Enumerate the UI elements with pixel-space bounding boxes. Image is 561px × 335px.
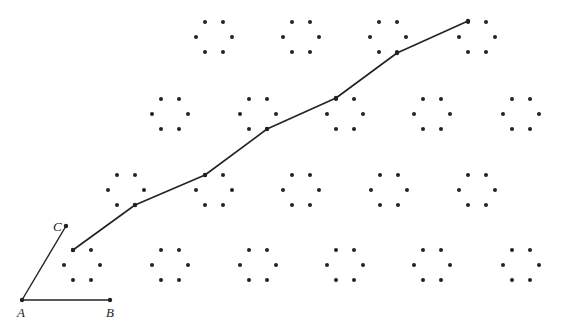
lattice-dot bbox=[510, 248, 514, 252]
path-vertex bbox=[71, 248, 75, 252]
lattice-dot bbox=[150, 112, 154, 116]
lattice-dot bbox=[528, 248, 532, 252]
lattice-dot bbox=[334, 127, 338, 131]
lattice-dot bbox=[405, 188, 409, 192]
lattice-dot bbox=[334, 278, 338, 282]
lattice-dot bbox=[325, 112, 329, 116]
lattice-dot bbox=[368, 35, 372, 39]
lattice-dot bbox=[62, 263, 66, 267]
lattice-dot bbox=[247, 248, 251, 252]
lattice-dot bbox=[203, 20, 207, 24]
lattice-dot bbox=[334, 248, 338, 252]
lattice-dot bbox=[142, 188, 146, 192]
dot-cluster bbox=[281, 20, 321, 54]
dot-cluster bbox=[62, 248, 102, 282]
path-vertices bbox=[71, 19, 470, 252]
lattice-dot bbox=[439, 97, 443, 101]
lattice-dot bbox=[290, 203, 294, 207]
path-vertex bbox=[133, 203, 137, 207]
lattice-dot bbox=[412, 263, 416, 267]
lattice-dot bbox=[281, 188, 285, 192]
lattice-dot bbox=[493, 188, 497, 192]
dot-cluster bbox=[150, 97, 190, 131]
lattice-dot bbox=[537, 263, 541, 267]
lattice-dot bbox=[186, 112, 190, 116]
lattice-dot bbox=[115, 203, 119, 207]
dot-cluster bbox=[368, 20, 408, 54]
dot-cluster bbox=[501, 97, 541, 131]
lattice-dot bbox=[352, 248, 356, 252]
lattice-dot bbox=[265, 97, 269, 101]
dot-cluster bbox=[281, 173, 321, 207]
basis-triangle: A B C bbox=[16, 219, 114, 320]
lattice-dot bbox=[274, 112, 278, 116]
label-a: A bbox=[16, 305, 25, 320]
lattice-dot bbox=[528, 127, 532, 131]
lattice-dot bbox=[404, 35, 408, 39]
lattice-dot bbox=[274, 263, 278, 267]
lattice-dot bbox=[493, 35, 497, 39]
lattice-dot bbox=[439, 248, 443, 252]
dot-cluster bbox=[325, 97, 365, 131]
lattice-dot bbox=[510, 127, 514, 131]
dot-cluster bbox=[325, 248, 365, 282]
lattice-dot bbox=[369, 188, 373, 192]
point-a bbox=[20, 298, 24, 302]
lattice-dot bbox=[378, 203, 382, 207]
lattice-dot bbox=[484, 20, 488, 24]
lattice-dot bbox=[352, 127, 356, 131]
lattice-dot bbox=[115, 173, 119, 177]
lattice-dot bbox=[221, 20, 225, 24]
lattice-dot bbox=[194, 35, 198, 39]
dot-cluster bbox=[412, 97, 452, 131]
lattice-dot bbox=[177, 248, 181, 252]
lattice-dot bbox=[448, 263, 452, 267]
lattice-dot bbox=[457, 188, 461, 192]
lattice-dot bbox=[537, 112, 541, 116]
lattice-dot bbox=[439, 278, 443, 282]
lattice-dot bbox=[265, 248, 269, 252]
lattice-dot bbox=[150, 263, 154, 267]
dot-cluster bbox=[457, 173, 497, 207]
path-vertex bbox=[466, 19, 470, 23]
lattice-dot bbox=[98, 263, 102, 267]
lattice-dot bbox=[484, 203, 488, 207]
lattice-path bbox=[73, 21, 468, 250]
dot-cluster bbox=[194, 20, 234, 54]
lattice-diagram: A B C bbox=[0, 0, 561, 335]
lattice-dot bbox=[203, 203, 207, 207]
path-vertex bbox=[334, 96, 338, 100]
lattice-dot bbox=[466, 203, 470, 207]
dot-cluster bbox=[238, 248, 278, 282]
dot-clusters bbox=[62, 20, 541, 282]
dot-cluster bbox=[501, 248, 541, 282]
dot-cluster bbox=[194, 173, 234, 207]
lattice-dot bbox=[421, 248, 425, 252]
path-vertex bbox=[265, 127, 269, 131]
lattice-dot bbox=[466, 50, 470, 54]
lattice-dot bbox=[265, 278, 269, 282]
lattice-dot bbox=[484, 173, 488, 177]
lattice-dot bbox=[290, 173, 294, 177]
lattice-dot bbox=[177, 127, 181, 131]
lattice-dot bbox=[290, 50, 294, 54]
lattice-dot bbox=[238, 112, 242, 116]
lattice-dot bbox=[106, 188, 110, 192]
lattice-dot bbox=[421, 278, 425, 282]
lattice-dot bbox=[352, 97, 356, 101]
lattice-dot bbox=[308, 173, 312, 177]
lattice-dot bbox=[377, 50, 381, 54]
lattice-dot bbox=[421, 97, 425, 101]
lattice-dot bbox=[308, 203, 312, 207]
dot-cluster bbox=[369, 173, 409, 207]
lattice-dot bbox=[308, 20, 312, 24]
dot-cluster bbox=[150, 248, 190, 282]
point-c bbox=[64, 224, 68, 228]
lattice-dot bbox=[421, 127, 425, 131]
dot-cluster bbox=[412, 248, 452, 282]
lattice-dot bbox=[89, 278, 93, 282]
lattice-dot bbox=[159, 127, 163, 131]
lattice-dot bbox=[221, 203, 225, 207]
lattice-dot bbox=[317, 35, 321, 39]
lattice-dot bbox=[466, 173, 470, 177]
